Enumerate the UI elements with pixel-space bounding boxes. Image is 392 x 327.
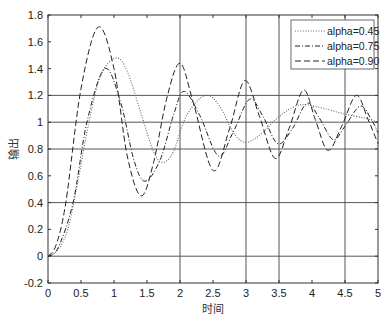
y-tick-label: 1.4 <box>28 63 43 75</box>
y-tick-label: -0.2 <box>24 277 43 289</box>
legend-label: alpha=0.45 <box>327 25 379 37</box>
series-line-alpha-0-45 <box>48 58 378 256</box>
x-tick-label: 4 <box>309 287 315 299</box>
y-tick-label: 1.8 <box>28 9 43 21</box>
y-tick-label: 0 <box>37 250 43 262</box>
x-tick-label: 1.5 <box>139 287 154 299</box>
x-tick-label: 1 <box>111 287 117 299</box>
y-tick-label: 1 <box>37 116 43 128</box>
y-tick-label: 0.4 <box>28 197 43 209</box>
y-tick-label: 0.2 <box>28 223 43 235</box>
legend: alpha=0.45alpha=0.75alpha=0.90 <box>291 20 379 69</box>
y-axis-tick-labels: -0.200.20.40.60.811.21.41.61.8 <box>24 9 43 289</box>
y-tick-label: 1.6 <box>28 36 43 48</box>
x-tick-label: 5 <box>375 287 381 299</box>
legend-label: alpha=0.90 <box>327 55 379 67</box>
line-chart: 00.511.522.533.544.55 -0.200.20.40.60.81… <box>0 0 392 327</box>
y-axis-title: 输出 <box>7 138 21 160</box>
x-tick-label: 3.5 <box>271 287 286 299</box>
x-tick-label: 0 <box>45 287 51 299</box>
x-tick-label: 0.5 <box>73 287 88 299</box>
legend-label: alpha=0.75 <box>327 40 379 52</box>
y-tick-label: 1.2 <box>28 89 43 101</box>
y-tick-label: 0.6 <box>28 170 43 182</box>
x-tick-label: 3 <box>243 287 249 299</box>
x-tick-label: 2.5 <box>205 287 220 299</box>
series-line-alpha-0-75 <box>48 68 378 256</box>
y-tick-label: 0.8 <box>28 143 43 155</box>
x-tick-label: 4.5 <box>337 287 352 299</box>
x-axis-title: 时间 <box>202 303 224 316</box>
x-tick-label: 2 <box>177 287 183 299</box>
x-axis-tick-labels: 00.511.522.533.544.55 <box>45 287 381 299</box>
